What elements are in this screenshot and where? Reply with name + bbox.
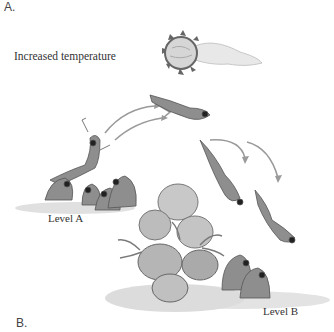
panel-label-b: B. bbox=[16, 316, 27, 330]
level-b-label: Level B bbox=[263, 305, 298, 317]
frog-jump-illustration bbox=[0, 0, 334, 332]
sun-icon bbox=[162, 30, 262, 75]
level-a-label: Level A bbox=[48, 212, 83, 224]
